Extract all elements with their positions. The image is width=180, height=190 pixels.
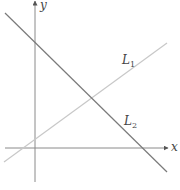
coordinate-diagram: y x L1 L2 [0, 0, 180, 190]
line-l1-label: L1 [121, 53, 135, 69]
x-axis-label: x [171, 140, 178, 154]
y-axis-label: y [39, 0, 47, 12]
line-l1 [4, 43, 167, 162]
line-l2-label: L2 [123, 114, 137, 130]
